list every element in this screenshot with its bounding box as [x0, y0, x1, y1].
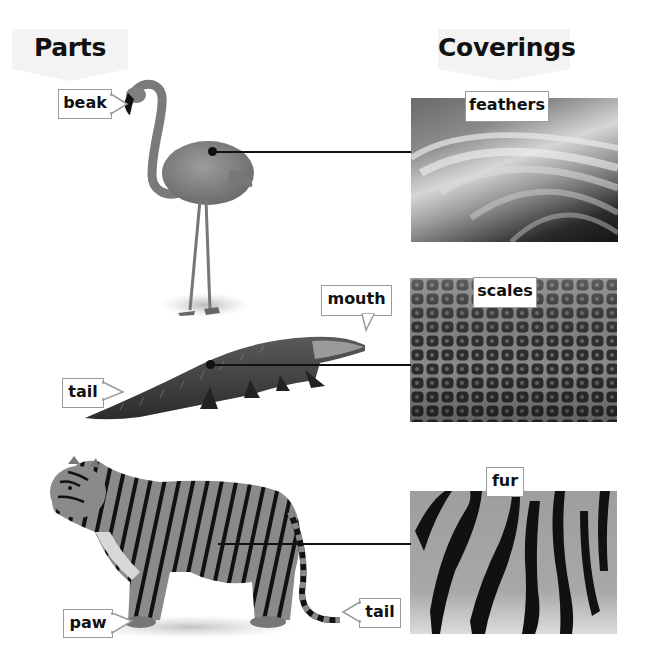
tiger-connector-line — [218, 543, 411, 545]
mouth-label: mouth — [321, 285, 392, 316]
beak-label: beak — [58, 89, 112, 119]
tiger-tail-label-pointer — [343, 600, 361, 626]
paw-label: paw — [63, 609, 113, 638]
beak-label-pointer — [111, 92, 131, 116]
alligator-connector-line — [210, 364, 411, 366]
flamingo-connector-line — [212, 151, 411, 153]
coverings-header-banner: Coverings — [438, 29, 570, 69]
banner-chevron — [438, 69, 570, 81]
flamingo-image — [110, 75, 270, 325]
fur-photo — [410, 491, 617, 634]
paw-label-pointer — [112, 611, 136, 637]
parts-header-title: Parts — [12, 33, 128, 62]
fur-label: fur — [486, 467, 524, 497]
feathers-label: feathers — [465, 91, 549, 122]
fur-texture — [410, 491, 617, 634]
alligator-image — [80, 325, 370, 425]
tiger-tail-label: tail — [359, 598, 401, 628]
mouth-label-pointer — [360, 314, 380, 334]
gator-tail-label: tail — [62, 378, 104, 408]
coverings-header-title: Coverings — [438, 33, 570, 62]
parts-header-banner: Parts — [12, 29, 128, 69]
scales-label: scales — [473, 277, 537, 308]
gator-tail-label-pointer — [103, 380, 127, 406]
